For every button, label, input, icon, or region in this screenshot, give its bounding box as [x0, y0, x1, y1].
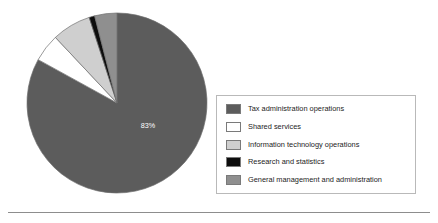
legend-swatch-icon	[226, 157, 241, 167]
pie-slice-data-label: 83%	[141, 121, 156, 130]
legend-item-label: Information technology operations	[248, 140, 359, 150]
legend-item-shared-services[interactable]: Shared services	[226, 119, 409, 135]
legend-item-label: General management and administration	[248, 175, 382, 185]
legend-swatch-icon	[226, 122, 241, 132]
legend-item-information-technology-operations[interactable]: Information technology operations	[226, 137, 409, 153]
legend-item-label: Tax administration operations	[248, 104, 344, 114]
legend-item-tax-administration-operations[interactable]: Tax administration operations	[226, 101, 409, 117]
footer-divider	[8, 212, 430, 213]
legend-swatch-icon	[226, 175, 241, 185]
legend-swatch-icon	[226, 104, 241, 114]
legend-item-label: Research and statistics	[248, 157, 324, 167]
legend-item-research-and-statistics[interactable]: Research and statistics	[226, 154, 409, 170]
pie-chart-figure: 83% Tax administration operations Shared…	[0, 0, 438, 223]
pie-svg: 83%	[24, 6, 214, 196]
chart-legend: Tax administration operations Shared ser…	[216, 95, 416, 194]
legend-item-label: Shared services	[248, 122, 301, 132]
pie-slice-group	[27, 13, 207, 193]
legend-swatch-icon	[226, 140, 241, 150]
pie-chart-plot-area: 83%	[24, 6, 214, 196]
legend-item-general-management-and-administration[interactable]: General management and administration	[226, 172, 409, 188]
